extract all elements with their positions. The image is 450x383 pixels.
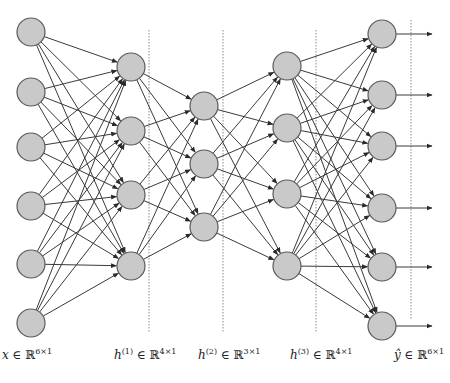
hidden3-node-4: [273, 252, 301, 280]
edge-input-5-to-hidden1-3: [43, 203, 120, 256]
layer-label-2: h(1) ∈ ℝ4×1: [114, 348, 176, 362]
label-superscript: (2): [206, 347, 217, 356]
neural-network-diagram: [0, 0, 450, 383]
layer-label-5: ŷ ∈ ℝ6×1: [394, 348, 444, 362]
output-node-6: [368, 312, 396, 340]
label-set: ∈ ℝ: [9, 348, 35, 362]
edge-hidden1-1-to-hidden2-3: [137, 80, 198, 214]
label-dimension: 3×1: [244, 347, 261, 356]
edge-hidden3-2-to-output-1: [297, 44, 372, 118]
edge-hidden1-2-to-hidden2-3: [140, 142, 196, 215]
hidden2-node-2: [190, 150, 218, 178]
hidden1-node-2: [117, 117, 145, 145]
edge-input-4-to-hidden1-1: [39, 79, 122, 195]
edge-hidden1-4-to-hidden2-3: [143, 234, 191, 260]
hidden1-node-1: [117, 53, 145, 81]
label-variable: ŷ: [394, 348, 401, 362]
output-node-4: [368, 194, 396, 222]
label-dimension: 4×1: [160, 347, 177, 356]
edge-hidden3-4-to-output-5: [301, 266, 368, 267]
edge-hidden1-3-to-hidden2-3: [144, 201, 191, 222]
edge-hidden2-1-to-hidden3-3: [214, 116, 278, 183]
edge-hidden2-1-to-hidden3-1: [217, 72, 274, 100]
edge-hidden1-1-to-hidden2-1: [143, 74, 191, 100]
edge-hidden2-3-to-hidden3-3: [217, 199, 274, 221]
edge-input-5-to-hidden1-1: [37, 80, 124, 252]
output-node-5: [368, 253, 396, 281]
edge-input-3-to-hidden1-3: [44, 153, 118, 189]
edge-input-4-to-hidden1-4: [43, 213, 119, 258]
edge-input-5-to-hidden1-4: [45, 264, 117, 265]
label-set: ∈ ℝ: [133, 348, 159, 362]
hidden2-node-1: [190, 92, 218, 120]
hidden3-node-1: [273, 52, 301, 80]
edge-hidden1-3-to-hidden2-1: [140, 117, 195, 184]
label-variable: h: [290, 348, 298, 362]
label-dimension: 4×1: [336, 347, 353, 356]
edge-hidden3-4-to-output-3: [296, 157, 373, 255]
edge-input-6-to-hidden1-4: [43, 273, 118, 316]
edge-hidden3-1-to-output-2: [300, 70, 368, 91]
edge-input-2-to-hidden1-1: [45, 71, 117, 89]
label-variable: h: [198, 348, 206, 362]
label-dimension: 6×1: [427, 347, 444, 356]
edge-hidden2-3-to-hidden3-4: [217, 233, 274, 260]
input-node-6: [17, 309, 45, 337]
edge-hidden3-2-to-output-4: [298, 137, 371, 199]
input-node-1: [17, 18, 45, 46]
label-set: ∈ ℝ: [309, 348, 335, 362]
edge-hidden2-1-to-hidden3-4: [210, 118, 280, 253]
input-node-5: [17, 250, 45, 278]
edge-hidden3-3-to-output-6: [295, 205, 373, 314]
output-node-1: [368, 20, 396, 48]
input-node-4: [17, 192, 45, 220]
label-set: ∈ ℝ: [401, 348, 427, 362]
label-variable: h: [114, 348, 122, 362]
hidden3-node-3: [273, 180, 301, 208]
edge-hidden3-2-to-output-3: [301, 131, 368, 144]
layer-label-1: x ∈ ℝ6×1: [2, 348, 52, 362]
input-node-3: [17, 133, 45, 161]
layer-label-3: h(2) ∈ ℝ3×1: [198, 348, 260, 362]
edge-hidden3-4-to-output-1: [292, 47, 376, 253]
edge-hidden3-3-to-output-1: [294, 47, 375, 183]
edge-hidden1-4-to-hidden2-1: [137, 119, 198, 253]
layer-label-4: h(3) ∈ ℝ4×1: [290, 348, 352, 362]
edge-hidden3-4-to-output-2: [294, 108, 375, 254]
edge-input-1-to-hidden1-2: [41, 42, 121, 121]
hidden1-node-3: [117, 181, 145, 209]
output-node-2: [368, 81, 396, 109]
edge-input-1-to-hidden1-1: [44, 37, 117, 63]
edge-hidden2-3-to-hidden3-1: [210, 79, 280, 215]
label-dimension: 6×1: [35, 347, 52, 356]
input-node-2: [17, 78, 45, 106]
edge-hidden2-1-to-hidden3-2: [218, 110, 274, 125]
output-arrows: [396, 34, 432, 326]
edge-hidden1-2-to-hidden2-1: [144, 111, 190, 127]
edge-hidden1-2-to-hidden2-2: [144, 137, 191, 158]
label-superscript: (3): [298, 347, 309, 356]
edge-hidden3-3-to-output-5: [298, 203, 370, 259]
edge-input-1-to-hidden1-4: [37, 45, 126, 253]
edge-hidden3-4-to-output-6: [299, 274, 370, 319]
hidden1-node-4: [117, 252, 145, 280]
edge-input-6-to-hidden1-1: [36, 81, 126, 311]
output-node-3: [368, 132, 396, 160]
label-set: ∈ ℝ: [217, 348, 243, 362]
hidden2-node-3: [190, 213, 218, 241]
label-superscript: (1): [122, 347, 133, 356]
edge-hidden1-1-to-hidden2-2: [139, 78, 195, 152]
edge-hidden3-1-to-output-3: [298, 75, 371, 137]
label-variable: x: [2, 348, 9, 362]
hidden3-node-2: [273, 114, 301, 142]
